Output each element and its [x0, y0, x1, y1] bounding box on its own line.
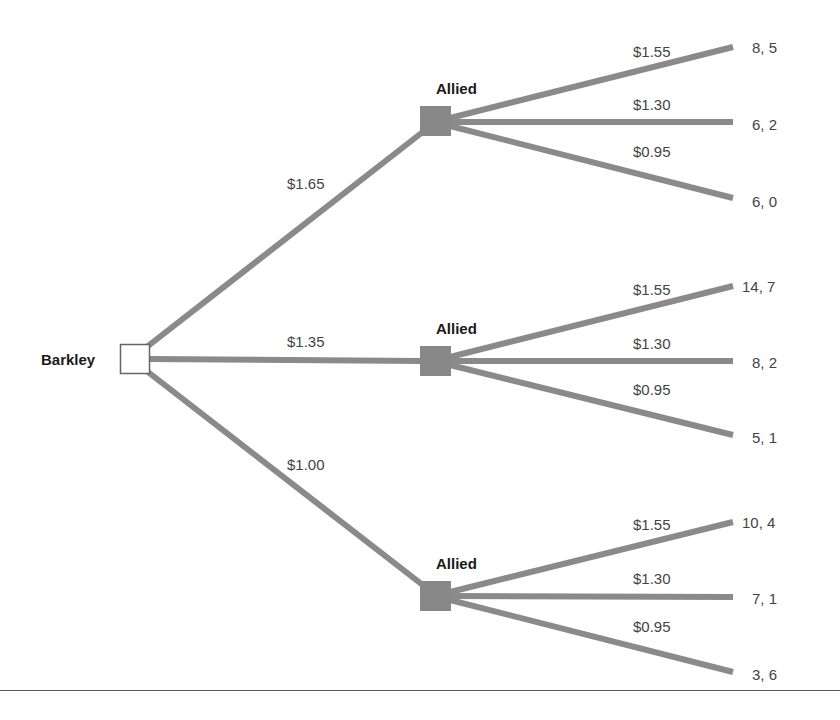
- branch-a3-1.55: [450, 522, 733, 592]
- barkley-root-node: [121, 345, 150, 374]
- allied-node-label: Allied: [436, 321, 477, 336]
- payoff: 5, 1: [752, 430, 777, 445]
- allied-move-label: $1.55: [633, 282, 671, 297]
- payoff: 6, 2: [752, 117, 777, 132]
- barkley-move-label: $1.35: [287, 334, 325, 349]
- allied-node-label: Allied: [436, 556, 477, 571]
- allied-move-label: $1.30: [633, 336, 671, 351]
- branch-a2-1.55: [450, 286, 733, 357]
- branch-barkley-1.00: [148, 372, 424, 586]
- barkley-label: Barkley: [41, 352, 95, 367]
- allied-move-label: $0.95: [633, 382, 671, 397]
- branch-a3-0.95: [450, 600, 733, 672]
- branch-a2-0.95: [450, 365, 733, 435]
- barkley-move-label: $1.00: [287, 457, 325, 472]
- payoff: 6, 0: [752, 194, 777, 209]
- game-tree-lines: [0, 0, 840, 720]
- allied-move-label: $1.30: [633, 571, 671, 586]
- branch-barkley-1.65: [148, 131, 424, 346]
- barkley-move-label: $1.65: [287, 176, 325, 191]
- bottom-divider: [0, 690, 840, 691]
- allied-move-label: $0.95: [633, 619, 671, 634]
- payoff: 14, 7: [742, 279, 775, 294]
- branch-a1-0.95: [450, 126, 733, 198]
- payoff: 8, 5: [752, 40, 777, 55]
- allied-move-label: $0.95: [633, 144, 671, 159]
- branch-a3-1.30: [450, 596, 733, 597]
- payoff: 10, 4: [742, 515, 775, 530]
- allied-move-label: $1.55: [633, 44, 671, 59]
- allied-move-label: $1.30: [633, 97, 671, 112]
- allied-move-label: $1.55: [633, 517, 671, 532]
- branch-a1-1.55: [450, 47, 733, 118]
- allied-node-2: [420, 346, 451, 376]
- payoff: 3, 6: [752, 667, 777, 682]
- payoff: 7, 1: [752, 591, 777, 606]
- branch-barkley-1.35: [150, 359, 422, 361]
- allied-node-1: [420, 106, 451, 136]
- payoff: 8, 2: [752, 355, 777, 370]
- allied-node-3: [420, 581, 451, 611]
- allied-node-label: Allied: [436, 81, 477, 96]
